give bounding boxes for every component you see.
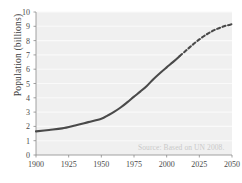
y-tick-label-6: 6 bbox=[16, 65, 30, 74]
y-tick-label-10: 10 bbox=[16, 8, 30, 17]
y-tick-label-0: 0 bbox=[16, 151, 30, 160]
chart-plot-area bbox=[0, 0, 242, 183]
y-tick-label-2: 2 bbox=[16, 122, 30, 131]
y-tick-label-1: 1 bbox=[16, 136, 30, 145]
y-tick-label-5: 5 bbox=[16, 79, 30, 88]
y-tick-label-9: 9 bbox=[16, 22, 30, 31]
y-tick-label-4: 4 bbox=[16, 93, 30, 102]
population-growth-chart: Population (billions) 109876543210 Sourc… bbox=[0, 0, 242, 183]
y-tick-label-7: 7 bbox=[16, 50, 30, 59]
x-tick-label-2050: 2050 bbox=[212, 160, 242, 169]
y-tick-label-8: 8 bbox=[16, 36, 30, 45]
y-tick-labels: 109876543210 bbox=[16, 0, 30, 183]
y-tick-label-3: 3 bbox=[16, 108, 30, 117]
source-annotation: Source: Based on UN 2008. bbox=[138, 143, 224, 152]
